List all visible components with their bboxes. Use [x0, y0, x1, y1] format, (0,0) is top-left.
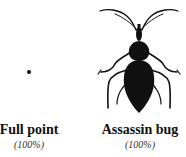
full-point-scale: (100%) — [0, 139, 69, 151]
full-point-icon — [27, 70, 31, 74]
assassin-bug-icon — [95, 4, 183, 116]
full-point-label: Full point — [0, 122, 69, 138]
assassin-bug-label: Assassin bug — [100, 122, 180, 138]
assassin-bug-scale: (100%) — [100, 139, 180, 151]
